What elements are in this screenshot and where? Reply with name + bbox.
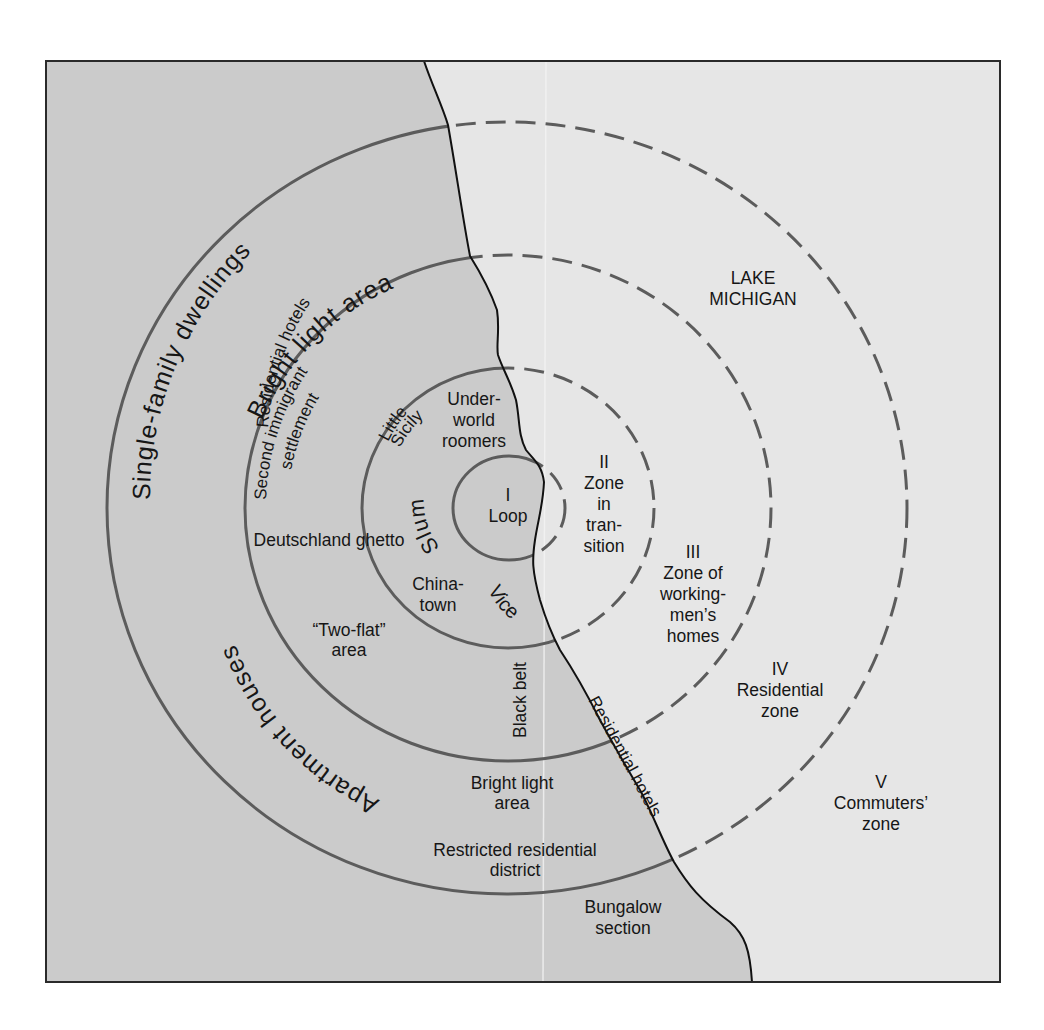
svg-text:tran-: tran- (586, 515, 622, 535)
svg-text:III: III (686, 542, 701, 562)
svg-text:Bright light: Bright light (471, 773, 554, 793)
label-chinatown: China- town (412, 574, 464, 615)
svg-text:IV: IV (772, 659, 789, 679)
svg-text:Zone of: Zone of (663, 563, 722, 583)
svg-text:district: district (490, 860, 541, 880)
svg-text:I: I (506, 485, 511, 505)
svg-text:Commuters’: Commuters’ (834, 793, 928, 813)
svg-text:LAKE: LAKE (731, 268, 776, 288)
svg-text:zone: zone (862, 814, 900, 834)
svg-text:II: II (599, 452, 609, 472)
svg-text:homes: homes (667, 626, 720, 646)
svg-text:sition: sition (584, 536, 625, 556)
svg-text:working-: working- (659, 584, 726, 604)
svg-text:China-: China- (412, 574, 464, 594)
svg-text:Loop: Loop (489, 506, 528, 526)
label-black-belt: Black belt (510, 662, 530, 738)
svg-text:MICHIGAN: MICHIGAN (709, 289, 797, 309)
svg-text:V: V (875, 772, 887, 792)
svg-text:“Two-flat”: “Two-flat” (313, 620, 386, 640)
svg-text:Under-: Under- (447, 389, 501, 409)
label-deutschland-ghetto: Deutschland ghetto (254, 530, 405, 550)
svg-text:area: area (494, 793, 529, 813)
svg-text:world: world (452, 410, 495, 430)
svg-text:Restricted residential: Restricted residential (433, 840, 596, 860)
svg-text:Residential: Residential (737, 680, 824, 700)
svg-text:section: section (595, 918, 650, 938)
svg-text:zone: zone (761, 701, 799, 721)
svg-text:area: area (331, 640, 366, 660)
svg-text:town: town (420, 595, 457, 615)
label-bungalow-section: Bungalow section (585, 897, 662, 938)
concentric-zone-diagram: Single-family dwellings Residential hote… (0, 0, 1044, 1030)
svg-text:Zone: Zone (584, 473, 624, 493)
svg-text:Bungalow: Bungalow (585, 897, 662, 917)
svg-text:in: in (597, 494, 611, 514)
svg-text:men’s: men’s (670, 605, 717, 625)
svg-text:roomers: roomers (442, 431, 506, 451)
